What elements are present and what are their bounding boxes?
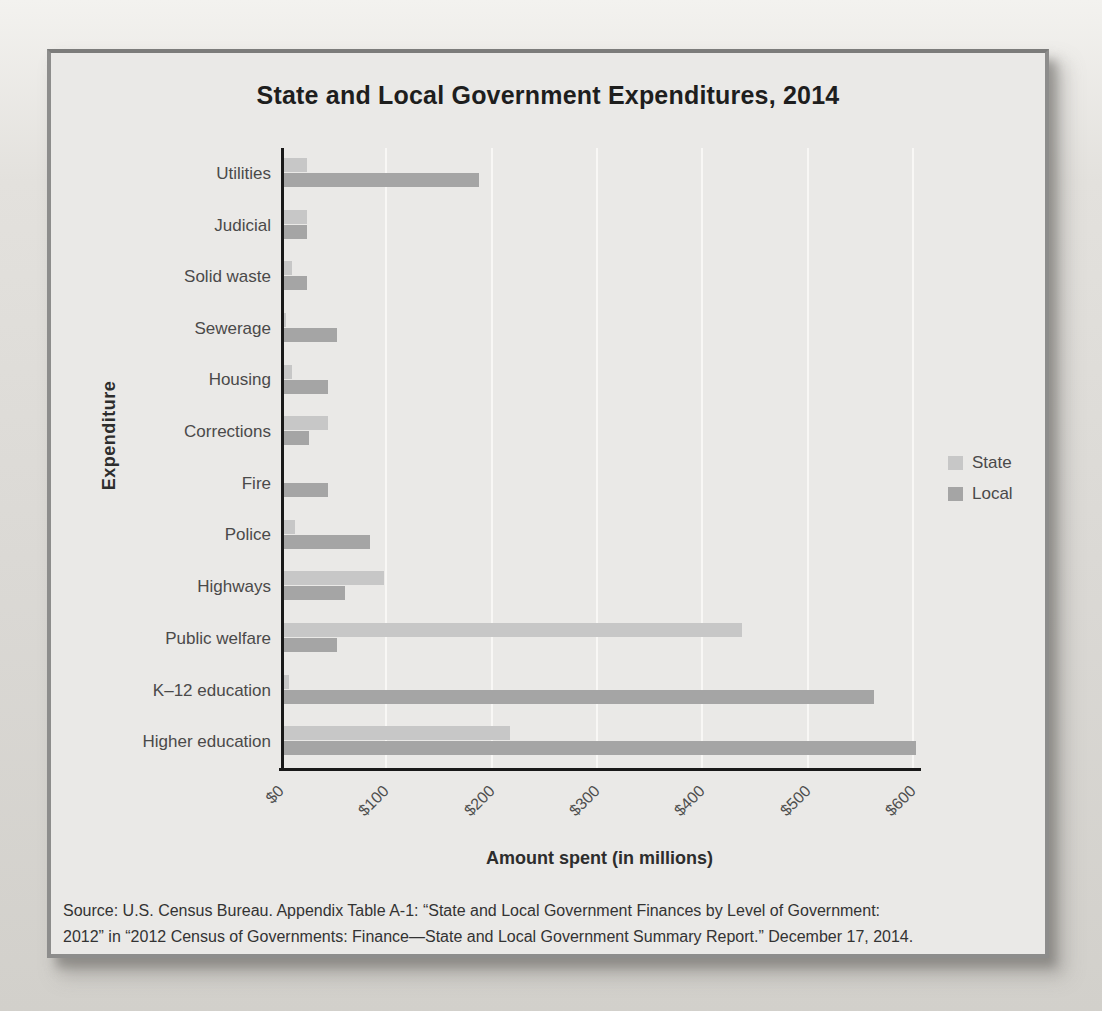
legend-item: State — [948, 453, 1013, 473]
local-bar — [284, 225, 307, 239]
local-bar — [284, 380, 328, 394]
x-tick-label: $200 — [434, 782, 499, 847]
local-bar — [284, 431, 309, 445]
state-bar — [284, 571, 384, 585]
local-bar — [284, 483, 328, 497]
legend-item: Local — [948, 484, 1013, 504]
category-label: Housing — [69, 370, 271, 390]
local-bar — [284, 638, 337, 652]
category-label: Public welfare — [69, 629, 271, 649]
state-bar — [284, 365, 292, 379]
category-label: K–12 education — [69, 681, 271, 701]
x-tick-label: $500 — [750, 782, 815, 847]
state-bar — [284, 623, 742, 637]
state-bar — [284, 726, 510, 740]
legend: StateLocal — [948, 453, 1013, 515]
source-note: Source: U.S. Census Bureau. Appendix Tab… — [63, 898, 1028, 950]
chart-panel: State and Local Government Expenditures,… — [47, 49, 1049, 958]
state-bar — [284, 416, 328, 430]
legend-label: State — [972, 453, 1012, 473]
category-label: Higher education — [69, 732, 271, 752]
chart-title: State and Local Government Expenditures,… — [51, 81, 1045, 110]
x-tick-label: $600 — [855, 782, 920, 847]
state-bar — [284, 520, 295, 534]
x-tick-label: $0 — [223, 782, 288, 847]
category-label: Utilities — [69, 164, 271, 184]
x-axis-title: Amount spent (in millions) — [281, 848, 918, 869]
state-bar — [284, 158, 307, 172]
category-label: Solid waste — [69, 267, 271, 287]
state-bar — [284, 675, 289, 689]
category-label: Police — [69, 525, 271, 545]
gridline — [807, 148, 809, 768]
local-bar — [284, 328, 337, 342]
local-bar — [284, 276, 307, 290]
state-bar — [284, 313, 286, 327]
category-label: Highways — [69, 577, 271, 597]
source-line-2: 2012” in “2012 Census of Governments: Fi… — [63, 924, 1028, 950]
state-bar — [284, 210, 307, 224]
legend-swatch-icon — [948, 456, 963, 470]
x-tick-label: $100 — [328, 782, 393, 847]
category-label: Judicial — [69, 216, 271, 236]
gridline — [912, 148, 914, 768]
gridline — [491, 148, 493, 768]
local-bar — [284, 741, 916, 755]
local-bar — [284, 535, 370, 549]
legend-swatch-icon — [948, 487, 963, 501]
gridline — [385, 148, 387, 768]
category-label: Corrections — [69, 422, 271, 442]
legend-label: Local — [972, 484, 1013, 504]
category-label: Fire — [69, 474, 271, 494]
x-axis-line — [279, 768, 921, 771]
category-label: Sewerage — [69, 319, 271, 339]
gridline — [701, 148, 703, 768]
state-bar — [284, 261, 292, 275]
source-line-1: Source: U.S. Census Bureau. Appendix Tab… — [63, 898, 1028, 924]
local-bar — [284, 173, 479, 187]
plot-area — [281, 148, 918, 768]
local-bar — [284, 586, 345, 600]
gridline — [596, 148, 598, 768]
x-tick-label: $300 — [539, 782, 604, 847]
local-bar — [284, 690, 874, 704]
x-tick-label: $400 — [644, 782, 709, 847]
